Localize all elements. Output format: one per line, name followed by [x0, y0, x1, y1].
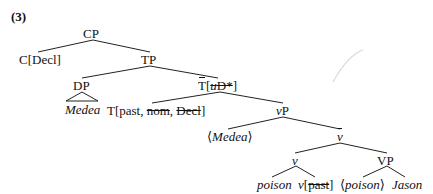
stray-mark: [333, 50, 363, 82]
node-tp: TP: [141, 53, 156, 66]
trace-poison: ⟨poison⟩: [340, 178, 385, 191]
leaf-poison: poison: [257, 178, 292, 191]
node-t-bar: T[uD*]: [198, 79, 237, 92]
leaf-v-past: v[past]: [298, 178, 333, 191]
node-t-head: T[past, nom, Decl]: [107, 104, 205, 117]
d-feature-checked: D*: [217, 78, 233, 93]
node-VP: VP: [377, 154, 394, 167]
decl-feature-checked: Decl: [176, 103, 201, 118]
node-cp: CP: [83, 27, 99, 40]
node-little-vp: vP: [276, 104, 289, 117]
node-c-decl: C[Decl]: [19, 53, 61, 66]
t-bar-head: T: [198, 79, 206, 92]
trace-medea: ⟨Medea⟩: [207, 130, 253, 143]
example-number: (3): [11, 10, 26, 23]
tree-edges: [0, 0, 433, 194]
nom-feature-checked: nom: [147, 103, 170, 118]
node-dp: DP: [73, 79, 90, 92]
past-feature-checked: past: [308, 177, 329, 192]
leaf-jason: Jason: [392, 178, 422, 191]
node-v: v: [292, 154, 298, 167]
node-v-bar: v: [337, 130, 343, 143]
leaf-medea: Medea: [65, 103, 100, 116]
